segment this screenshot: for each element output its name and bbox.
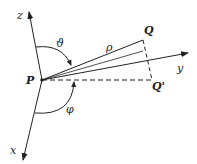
projection-label: Q' <box>152 80 165 93</box>
radius-line-2 <box>42 51 143 80</box>
polar-angle-label: ϑ <box>56 37 64 50</box>
z-axis-label: z <box>16 9 23 22</box>
polar-angle-arc <box>36 47 71 65</box>
x-axis <box>23 80 42 160</box>
y-axis <box>42 53 188 80</box>
z-axis <box>29 12 42 80</box>
origin-label: P <box>25 74 35 87</box>
point-label: Q <box>144 24 154 37</box>
x-axis-label: x <box>10 144 17 157</box>
origin-point <box>40 78 44 82</box>
azimuth-angle-label: φ <box>66 103 74 116</box>
spherical-coordinates-diagram: z ϑ P ρ Q y Q' φ x <box>0 0 197 164</box>
y-axis-label: y <box>176 62 184 75</box>
radius-label: ρ <box>105 41 113 54</box>
